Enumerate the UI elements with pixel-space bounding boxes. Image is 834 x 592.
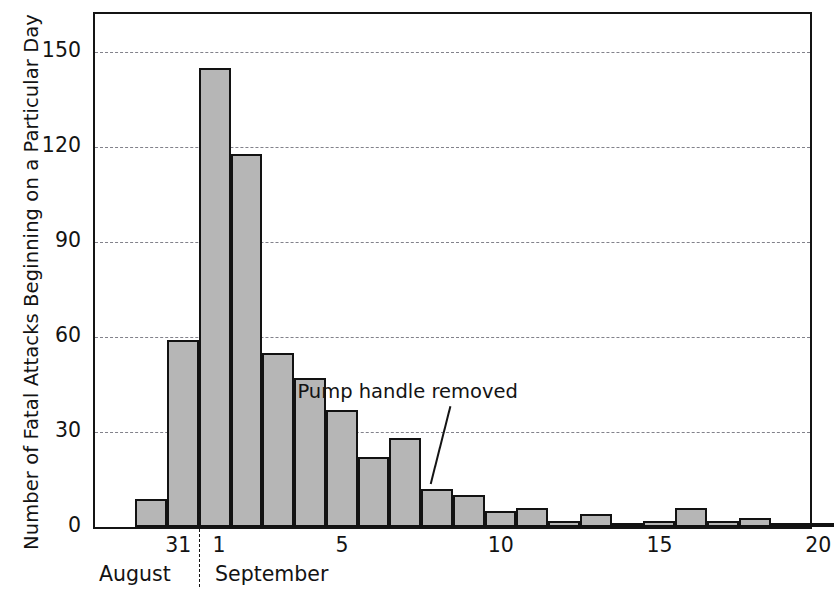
y-tick-label-30: 30: [1, 418, 81, 442]
bar: [580, 514, 612, 527]
month-divider-line-below-axis: [199, 529, 200, 587]
x-tick-label-5: 5: [312, 533, 372, 557]
bar: [389, 438, 421, 527]
y-tick-label-0: 0: [1, 513, 81, 537]
bar: [516, 508, 548, 527]
bar: [453, 495, 485, 527]
bar: [802, 523, 834, 527]
bar: [358, 457, 390, 527]
bar: [262, 353, 294, 527]
y-tick-label-150: 150: [1, 38, 81, 62]
bars-group: [95, 14, 810, 527]
bar: [643, 521, 675, 527]
annotation-pump-handle-removed: Pump handle removed: [297, 380, 517, 403]
y-tick-label-120: 120: [1, 133, 81, 157]
x-axis-month-label-september: September: [215, 562, 328, 586]
bar: [421, 489, 453, 527]
bar: [167, 340, 199, 527]
bar: [231, 154, 263, 527]
bar: [739, 518, 771, 527]
x-tick-label-20: 20: [788, 533, 834, 557]
bar: [485, 511, 517, 527]
bar: [326, 410, 358, 527]
cholera-histogram-figure: Number of Fatal Attacks Beginning on a P…: [0, 0, 834, 592]
x-tick-label-15: 15: [630, 533, 690, 557]
bar: [771, 523, 803, 527]
x-axis-month-label-august: August: [99, 562, 171, 586]
bar: [707, 521, 739, 527]
bar: [135, 499, 167, 527]
y-tick-label-60: 60: [1, 323, 81, 347]
plot-inner: Pump handle removed: [95, 14, 810, 527]
bar: [199, 68, 231, 527]
y-tick-label-90: 90: [1, 228, 81, 252]
bar: [675, 508, 707, 527]
x-tick-label-10: 10: [471, 533, 531, 557]
bar: [548, 521, 580, 527]
bar: [612, 523, 644, 527]
plot-area: Pump handle removed: [93, 12, 812, 529]
month-divider-line: [199, 509, 200, 527]
x-tick-label-1: 1: [189, 533, 249, 557]
